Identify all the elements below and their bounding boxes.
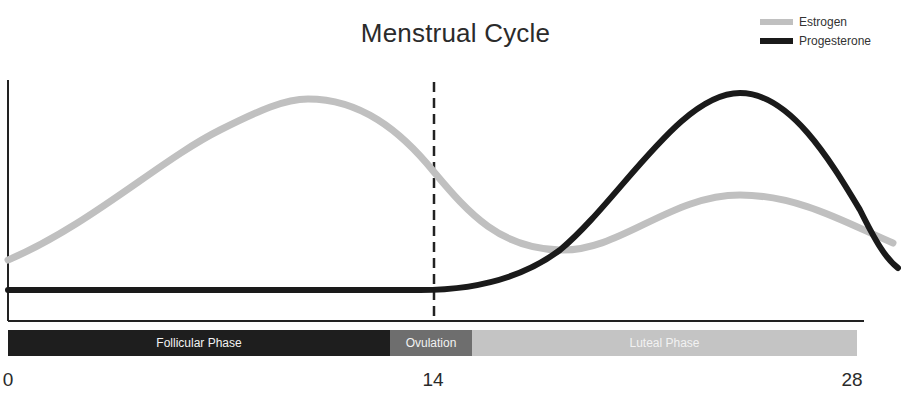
- phase-ovulation: Ovulation: [390, 330, 472, 356]
- phase-bar: Follicular Phase Ovulation Luteal Phase: [8, 330, 857, 356]
- x-tick-28: 28: [841, 369, 862, 391]
- phase-luteal: Luteal Phase: [472, 330, 857, 356]
- x-tick-0: 0: [3, 369, 14, 391]
- estrogen-line: [8, 99, 893, 260]
- x-tick-14: 14: [422, 369, 443, 391]
- phase-follicular: Follicular Phase: [8, 330, 390, 356]
